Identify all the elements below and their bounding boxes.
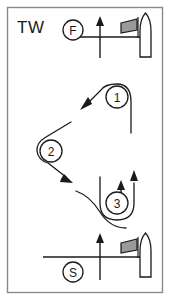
- finish-mark-label: F: [69, 24, 76, 38]
- mark-2-label: 2: [48, 145, 55, 159]
- finish-committee-boat: [140, 13, 151, 57]
- start-committee-boat: [140, 233, 151, 277]
- course-diagram-root: TW F 1: [0, 0, 171, 302]
- course-diagram-canvas: TW F 1: [0, 0, 171, 302]
- start-mark-label: S: [69, 266, 77, 280]
- diagram-frame: [8, 8, 163, 293]
- mark-1-label: 1: [114, 91, 121, 105]
- mark-3-label: 3: [114, 197, 121, 211]
- true-wind-label: TW: [17, 18, 44, 37]
